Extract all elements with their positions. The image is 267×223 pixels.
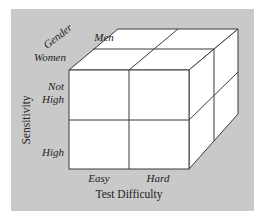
difficulty-level-hard: Hard	[146, 172, 170, 184]
factorial-design-cube-diagram: Gender Men Women Not High High Sensitivi…	[0, 0, 267, 223]
sensitivity-level-not-high-line2: High	[41, 93, 65, 105]
gender-level-women: Women	[34, 51, 66, 63]
difficulty-level-easy: Easy	[87, 172, 110, 184]
difficulty-axis-title: Test Difficulty	[95, 188, 162, 201]
gender-level-men: Men	[93, 31, 114, 43]
sensitivity-level-not-high-line1: Not	[47, 80, 65, 92]
sensitivity-axis-title: Sensitivity	[20, 95, 33, 144]
sensitivity-level-high: High	[41, 146, 65, 158]
